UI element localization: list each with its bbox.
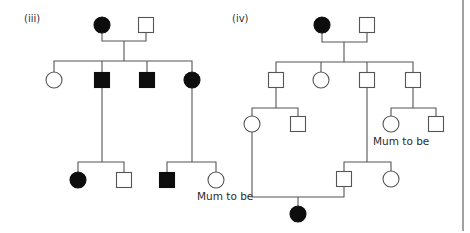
affected-female-circle (314, 17, 330, 33)
unaffected-male-square (406, 73, 421, 88)
unaffected-female-circle (313, 72, 329, 88)
unaffected-male-square (360, 73, 375, 88)
unaffected-female-circle (244, 116, 260, 132)
pedigree-connector-line (344, 162, 391, 171)
pedigree-connector-line (276, 62, 413, 72)
pedigree-figure: (iii) Mum to be (iv) Mum to be (0, 0, 470, 233)
unaffected-female-circle (46, 72, 62, 88)
pedigree-iv-label: (iv) (232, 13, 249, 24)
unaffected-female-circle (208, 172, 224, 188)
pedigree-iv: (iv) Mum to be (232, 13, 444, 222)
mum-to-be-label-iv: Mum to be (373, 135, 429, 147)
pedigree-connector-line (391, 108, 436, 116)
unaffected-male-square (360, 18, 375, 33)
pedigree-iii-lines (54, 33, 216, 172)
affected-male-square (160, 173, 175, 188)
affected-female-circle (70, 172, 86, 188)
unaffected-male-square (139, 18, 154, 33)
affected-male-square (140, 73, 155, 88)
pedigree-connector-line (252, 132, 344, 197)
pedigree-connector-line (102, 33, 146, 41)
affected-female-circle (94, 17, 110, 33)
pedigree-iii-label: (iii) (24, 13, 40, 24)
unaffected-female-circle (383, 171, 399, 187)
unaffected-male-square (269, 73, 284, 88)
unaffected-male-square (291, 117, 306, 132)
mum-to-be-label-iii: Mum to be (197, 190, 253, 202)
pedigree-connector-line (54, 61, 192, 72)
unaffected-male-square (117, 173, 132, 188)
unaffected-male-square (337, 172, 352, 187)
pedigree-connector-line (167, 162, 216, 172)
pedigree-connector-line (322, 33, 367, 42)
unaffected-female-circle (383, 116, 399, 132)
affected-female-circle (184, 72, 200, 88)
pedigree-connector-line (78, 162, 124, 172)
affected-male-square (95, 73, 110, 88)
unaffected-male-square (429, 117, 444, 132)
affected-female-circle (290, 206, 306, 222)
pedigree-connector-line (252, 108, 298, 116)
pedigree-iii: (iii) Mum to be (24, 13, 253, 202)
